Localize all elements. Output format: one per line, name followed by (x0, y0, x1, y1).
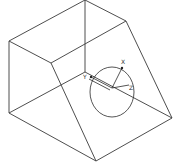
wireframe-drawing: X Y Z (0, 0, 177, 166)
y-axis-label: Y (82, 73, 87, 80)
circle-feature (90, 67, 134, 117)
z-axis-label: Z (129, 84, 133, 91)
cad-viewport[interactable]: X Y Z (0, 0, 177, 166)
x-axis-label: X (121, 58, 125, 65)
solid-edges (9, 0, 172, 161)
ucs-icon (89, 67, 134, 117)
